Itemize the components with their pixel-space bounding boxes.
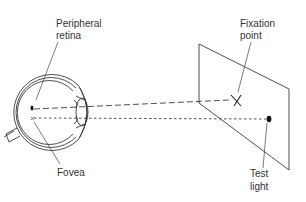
label-fixation-line1: Fixation <box>240 18 275 29</box>
label-fovea: Fovea <box>57 167 85 178</box>
fixation-x-icon <box>231 95 241 106</box>
eye-cross-section <box>4 75 88 151</box>
peripheral-point-icon <box>31 117 34 120</box>
test-light-leader <box>263 123 267 168</box>
diagram-canvas: Peripheral retina Fovea Fixation point T… <box>0 0 306 202</box>
peripheral-retina-leader <box>36 42 58 100</box>
label-test-line1: Test <box>250 168 269 179</box>
test-light-line <box>34 118 266 119</box>
test-light-dot <box>267 116 272 122</box>
perimetry-diagram: Peripheral retina Fovea Fixation point T… <box>0 0 306 202</box>
label-fixation-line2: point <box>240 30 262 41</box>
tangent-screen <box>199 44 289 170</box>
fixation-point-leader <box>238 42 251 92</box>
label-peripheral-line1: Peripheral <box>56 18 102 29</box>
label-peripheral-line2: retina <box>56 30 81 41</box>
fovea-leader <box>34 122 60 164</box>
label-test-line2: light <box>250 181 269 192</box>
fovea-spot <box>31 106 34 111</box>
